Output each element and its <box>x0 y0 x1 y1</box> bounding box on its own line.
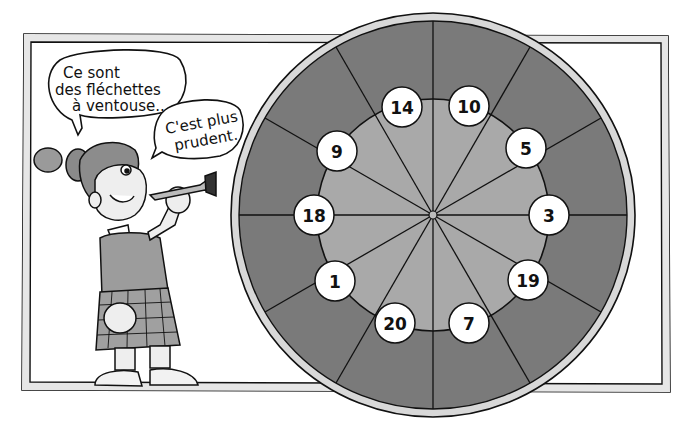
score-number-18: 18 <box>294 195 334 235</box>
score-number-9: 9 <box>317 131 357 171</box>
score-number-3: 3 <box>529 195 569 235</box>
score-number-19: 19 <box>508 260 548 300</box>
svg-text:18: 18 <box>302 206 326 226</box>
svg-text:1: 1 <box>329 272 341 292</box>
svg-text:7: 7 <box>463 314 475 334</box>
bullseye[interactable] <box>429 211 437 219</box>
dartboard[interactable]: 141053197201189 <box>231 13 635 417</box>
score-number-7: 7 <box>449 303 489 343</box>
svg-text:14: 14 <box>390 98 414 118</box>
illustration-scene: 141053197201189 <box>0 0 691 427</box>
score-number-14: 14 <box>382 87 422 127</box>
score-number-1: 1 <box>315 261 355 301</box>
svg-text:3: 3 <box>543 206 555 226</box>
svg-text:19: 19 <box>516 271 540 291</box>
speech-bubble-2: C'est plus prudent. <box>152 100 247 159</box>
score-number-10: 10 <box>449 86 489 126</box>
svg-text:9: 9 <box>331 142 343 162</box>
score-number-5: 5 <box>506 128 546 168</box>
svg-text:5: 5 <box>520 139 532 159</box>
score-number-20: 20 <box>375 303 415 343</box>
svg-text:20: 20 <box>383 314 407 334</box>
svg-text:10: 10 <box>457 97 481 117</box>
